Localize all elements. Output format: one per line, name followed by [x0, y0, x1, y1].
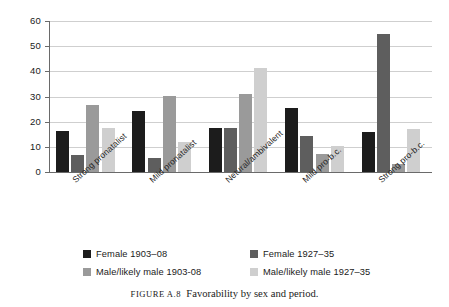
legend-entry-2[interactable]: Male/likely male 1903-08	[83, 267, 201, 277]
legend-entry-3[interactable]: Male/likely male 1927–35	[250, 267, 370, 277]
bar[interactable]	[362, 132, 375, 172]
caption-figure-number: FIGURE A.8	[131, 289, 181, 299]
bar[interactable]	[209, 128, 222, 172]
figure-container: 0102030405060 Strong pronatalistMild pro…	[0, 0, 449, 307]
legend-entry-0[interactable]: Female 1903–08	[83, 249, 167, 259]
figure-caption: FIGURE A.8 Favorability by sex and perio…	[0, 288, 449, 300]
y-tick-label: 60	[19, 16, 41, 26]
legend-entry-1[interactable]: Female 1927–35	[250, 249, 334, 259]
legend-row: Male/likely male 1903-08 Male/likely mal…	[83, 267, 383, 285]
y-tick-mark	[45, 46, 49, 47]
y-tick-mark	[45, 97, 49, 98]
y-tick-label: 50	[19, 41, 41, 51]
legend-label: Male/likely male 1903-08	[96, 267, 201, 277]
y-tick-mark	[45, 71, 49, 72]
caption-text: Favorability by sex and period.	[186, 288, 318, 299]
chart-legend: Female 1903–08 Female 1927–35 Male/likel…	[83, 249, 383, 285]
bar[interactable]	[285, 108, 298, 172]
legend-label: Male/likely male 1927–35	[263, 267, 370, 277]
legend-swatch-icon	[250, 268, 258, 276]
bar[interactable]	[132, 111, 145, 172]
y-tick-label: 20	[19, 117, 41, 127]
y-tick-mark	[45, 122, 49, 123]
y-tick-label: 0	[19, 167, 41, 177]
legend-swatch-icon	[83, 268, 91, 276]
legend-swatch-icon	[250, 250, 258, 258]
y-tick-mark	[45, 21, 49, 22]
legend-label: Female 1903–08	[96, 249, 167, 259]
legend-row: Female 1903–08 Female 1927–35	[83, 249, 383, 267]
legend-label: Female 1927–35	[263, 249, 334, 259]
bar[interactable]	[56, 131, 69, 172]
y-tick-mark	[45, 147, 49, 148]
y-tick-mark	[45, 172, 49, 173]
y-tick-label: 30	[19, 92, 41, 102]
bar[interactable]	[377, 34, 390, 172]
y-tick-label: 10	[19, 142, 41, 152]
y-tick-label: 40	[19, 66, 41, 76]
legend-swatch-icon	[83, 250, 91, 258]
